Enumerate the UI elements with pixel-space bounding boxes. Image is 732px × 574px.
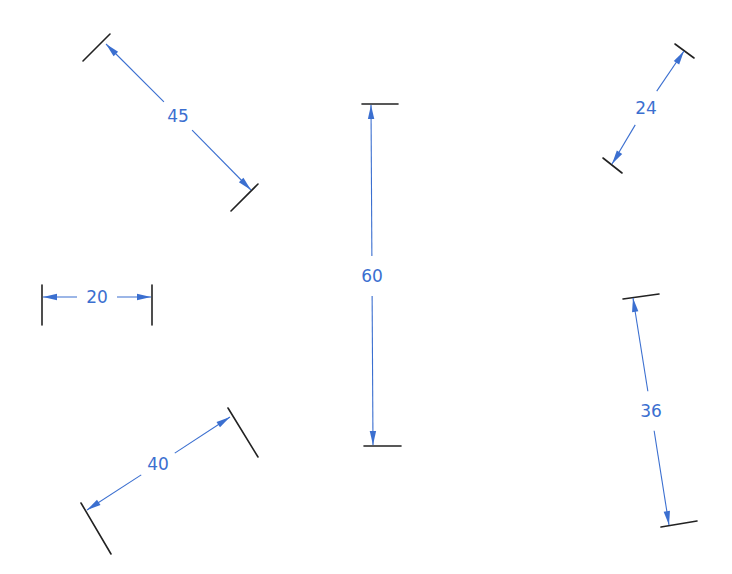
diagram-canvas: 456024203640 xyxy=(0,0,732,574)
extension-line-start xyxy=(675,44,694,58)
arrowhead-start xyxy=(368,105,374,119)
dimension-line-end xyxy=(372,296,373,445)
dimension-label: 60 xyxy=(361,266,383,286)
dimension-label: 24 xyxy=(635,98,657,118)
arrowhead-end xyxy=(370,431,376,445)
extension-line-end xyxy=(231,184,258,211)
dim-24: 24 xyxy=(603,44,694,173)
dimension-line-start xyxy=(371,105,372,256)
extension-line-start xyxy=(228,408,258,457)
dim-60: 60 xyxy=(361,104,401,446)
arrowhead-end xyxy=(664,511,670,525)
dimension-line-start xyxy=(633,298,648,391)
arrowhead-end xyxy=(137,294,151,300)
dimension-label: 20 xyxy=(86,287,108,307)
arrowhead-start xyxy=(632,298,638,312)
dimension-label: 36 xyxy=(640,401,662,421)
dim-45: 45 xyxy=(83,34,258,211)
arrowhead-end xyxy=(87,500,100,510)
extension-line-end xyxy=(661,521,697,527)
arrowhead-end xyxy=(612,150,622,164)
dim-20: 20 xyxy=(42,285,152,325)
extension-line-start xyxy=(623,294,659,299)
arrowhead-start xyxy=(217,417,230,427)
dim-40: 40 xyxy=(81,408,258,554)
dim-36: 36 xyxy=(623,294,697,527)
dimension-drawing: 456024203640 xyxy=(0,0,732,574)
dimension-label: 40 xyxy=(147,454,169,474)
extension-line-end xyxy=(81,503,111,554)
dimension-label: 45 xyxy=(167,106,189,126)
extension-line-start xyxy=(83,34,110,61)
arrowhead-start xyxy=(674,51,684,65)
arrowhead-start xyxy=(43,294,57,300)
extension-line-end xyxy=(603,158,622,173)
dimension-line-end xyxy=(654,431,669,525)
